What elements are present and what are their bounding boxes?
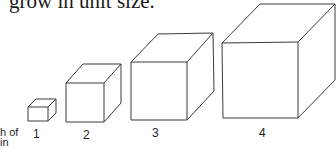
cube-label-2: 2	[83, 129, 90, 141]
cube-label-3: 3	[152, 127, 159, 139]
cube-growth-figure	[0, 0, 336, 161]
cube-xlarge-icon	[222, 4, 335, 118]
cube-label-4: 4	[259, 127, 266, 139]
cube-medium-icon	[66, 64, 121, 122]
cube-large-icon	[131, 33, 214, 120]
cube-label-1: 1	[33, 128, 40, 140]
axis-label-line2: in	[0, 137, 9, 148]
cube-small-icon	[28, 99, 56, 121]
